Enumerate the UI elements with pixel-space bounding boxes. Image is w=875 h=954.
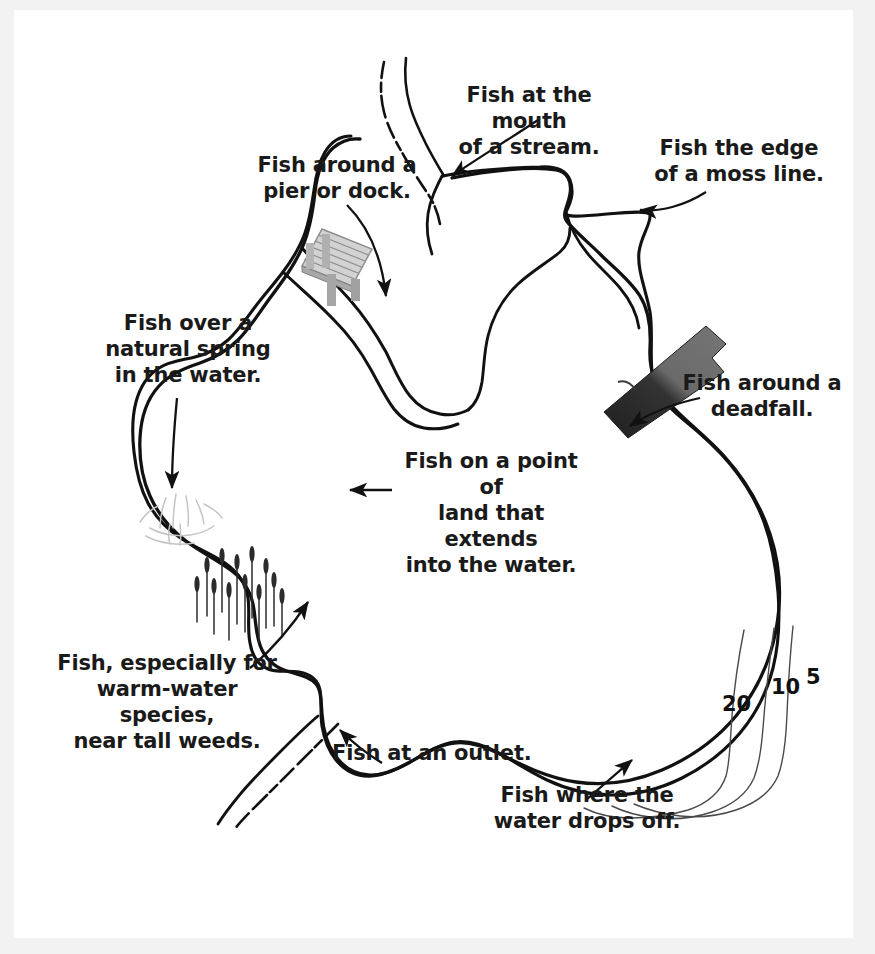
callout-drop-off: Fish where the water drops off. — [482, 782, 692, 834]
pier-dock — [302, 229, 372, 306]
callout-pier-dock: Fish around a pier or dock. — [242, 152, 432, 204]
point-of-land-shore — [283, 272, 458, 429]
callout-point-of-land: Fish on a point of land that extends int… — [392, 448, 590, 578]
lake-fishing-diagram: Fish at the mouth of a stream. Fish arou… — [0, 0, 875, 954]
depth-label-5: 5 — [806, 665, 821, 689]
callout-tall-weeds: Fish, especially for warm-water species,… — [48, 650, 286, 754]
arrow-moss-line — [640, 192, 706, 210]
weed-bed — [194, 546, 284, 642]
arrow-natural-spring — [172, 398, 177, 488]
callout-moss-line: Fish the edge of a moss line. — [645, 135, 833, 187]
callout-stream-mouth: Fish at the mouth of a stream. — [430, 82, 628, 160]
callout-natural-spring: Fish over a natural spring in the water. — [92, 310, 284, 388]
depth-label-10: 10 — [771, 675, 800, 699]
callout-outlet: Fish at an outlet. — [332, 740, 552, 766]
callout-deadfall: Fish around a deadfall. — [672, 370, 852, 422]
moss-line-shore — [566, 212, 639, 328]
depth-label-20: 20 — [722, 692, 751, 716]
